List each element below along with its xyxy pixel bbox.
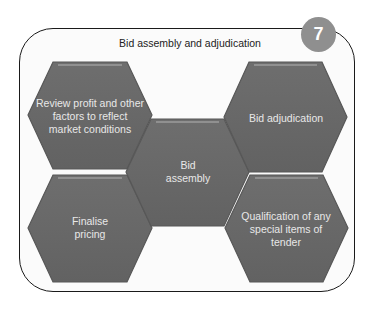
hex-adjudication-label: Bid adjudication [234, 110, 338, 126]
hexagon-cluster [0, 0, 379, 312]
hex-qualification-label: Qualification of any special items of te… [238, 208, 334, 250]
hex-assembly-label: Bid assembly [158, 158, 218, 186]
hex-pricing-label: Finalise pricing [62, 214, 118, 242]
hex-review-label: Review profit and other factors to refle… [36, 90, 144, 142]
